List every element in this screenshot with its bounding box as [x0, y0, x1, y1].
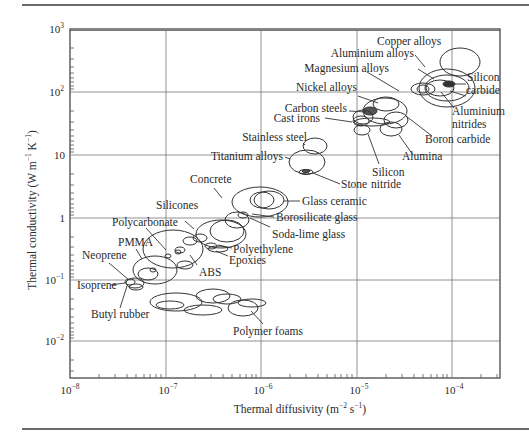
y-tick-10: 10: [54, 149, 66, 161]
x-axis-title: Thermal diffusivity (m−2 s−1): [234, 401, 367, 416]
y-tick-1e3: 103: [49, 21, 64, 35]
bubble-glass-ceramic: [254, 191, 284, 209]
x-tick-1e-6: 10−6: [254, 382, 273, 396]
label-alumina: Alumina: [402, 150, 442, 162]
label-glass-ceramic: Glass ceramic: [302, 195, 367, 207]
bubble-polymer-foams-b: [156, 301, 184, 309]
bubble-polymer-foams-c: [184, 305, 222, 315]
label-pmma: PMMA: [118, 236, 154, 248]
label-silicon-carbide-line2: carbide: [466, 84, 500, 96]
bubble-neoprene-c: [150, 268, 156, 272]
x-tick-1e-4: 10−4: [445, 382, 464, 396]
bubble-polymer-foams-g: [238, 299, 266, 307]
label-silicones: Silicones: [156, 199, 199, 211]
bubble-polycarbonate: [183, 237, 197, 245]
y-tick-1e-1: 10−1: [45, 272, 64, 286]
label-stainless-steel: Stainless steel: [242, 131, 307, 143]
label-epoxies: Epoxies: [229, 254, 267, 267]
label-stone: Stone: [341, 178, 367, 190]
label-silicon-nitride-line2: nitride: [371, 178, 401, 190]
x-tick-1e-5: 10−5: [350, 382, 369, 396]
label-aluminium-nitrides-line2: nitrides: [452, 118, 487, 130]
label-polycarbonate: Polycarbonate: [112, 216, 178, 229]
label-magnesium-alloys: Magnesium alloys: [304, 62, 389, 75]
y-tick-1e-2: 10−2: [45, 333, 64, 347]
label-cast-irons: Cast irons: [274, 112, 321, 124]
label-neoprene: Neoprene: [82, 249, 127, 262]
label-soda-lime-glass: Soda-lime glass: [272, 228, 346, 241]
bubble-polymer-small-b: [177, 261, 193, 269]
label-aluminium-alloys: Aluminium alloys: [331, 47, 415, 60]
bubble-butyl-rubber: [129, 284, 143, 290]
y-tick-labels: 103 102 10 1 10−1 10−2: [45, 21, 65, 347]
y-tick-1e2: 102: [49, 84, 64, 98]
bubble-silicones-b: [210, 220, 244, 242]
label-butyl-rubber: Butyl rubber: [91, 308, 150, 321]
bubble-stone-dot: [302, 170, 310, 173]
label-silicon-nitride-line1: Silicon: [372, 166, 405, 178]
chart: 103 102 10 1 10−1 10−2 10−8 10−7 10−6 10…: [0, 0, 529, 440]
x-tick-1e-7: 10−7: [159, 382, 178, 396]
x-tick-labels: 10−8 10−7 10−6 10−5 10−4: [61, 382, 464, 396]
label-abs: ABS: [199, 266, 221, 278]
bubble-alumina: [380, 122, 402, 136]
bubble-abs-inner: [175, 250, 181, 254]
label-nickel-alloys: Nickel alloys: [296, 81, 358, 94]
label-concrete: Concrete: [190, 173, 232, 185]
label-silicon-carbide-line1: Silicon: [467, 71, 500, 83]
label-polymer-foams: Polymer foams: [233, 325, 303, 338]
bubble-aluminium-nitrides-b: [417, 85, 429, 93]
label-boron-carbide: Boron carbide: [425, 133, 490, 145]
label-borosilicate-glass: Borosilicate glass: [276, 211, 358, 224]
label-titanium-alloys: Titanium alloys: [211, 150, 284, 163]
bubble-silicon-nitride: [354, 125, 370, 135]
x-tick-1e-8: 10−8: [61, 382, 80, 396]
label-aluminium-nitrides-line1: Aluminium: [452, 105, 505, 117]
label-isoprene: Isoprene: [77, 279, 117, 292]
y-tick-1: 1: [60, 212, 66, 224]
y-axis-title: Thermal conductivity (W m−1 K−1): [24, 130, 39, 290]
